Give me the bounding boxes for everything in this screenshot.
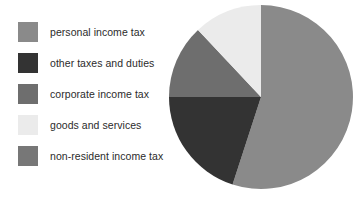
pie-chart-svg [0,0,364,200]
chart-figure: personal income tax other taxes and duti… [0,0,364,200]
pie-slice-group [169,5,353,189]
pie-chart [0,0,364,200]
